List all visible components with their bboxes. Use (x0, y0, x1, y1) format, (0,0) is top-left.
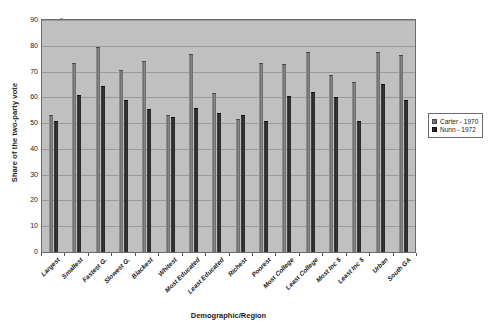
x-axis-tick-label: Smallest (60, 256, 84, 280)
bar-group (275, 20, 298, 252)
y-axis-tick-label: 50 (22, 119, 38, 126)
y-axis-tick-labels: 0102030405060708090 (22, 16, 38, 254)
bar-carter[interactable] (212, 93, 216, 252)
bar-nunn[interactable] (124, 100, 128, 252)
bar-nunn[interactable] (381, 84, 385, 252)
bars-layer (42, 20, 415, 252)
bar-group (182, 20, 205, 252)
bar-nunn[interactable] (171, 117, 175, 252)
bar-carter[interactable] (399, 55, 403, 252)
bar-group (112, 20, 135, 252)
bar-carter[interactable] (166, 115, 170, 252)
legend-item[interactable]: Carter - 1970 (432, 118, 478, 125)
bar-carter[interactable] (119, 70, 123, 252)
bar-nunn[interactable] (334, 97, 338, 252)
x-axis-tick-label: Urban (371, 256, 389, 274)
bar-nunn[interactable] (54, 121, 58, 252)
bar-nunn[interactable] (264, 121, 268, 252)
bar-carter[interactable] (376, 52, 380, 252)
bar-nunn[interactable] (194, 108, 198, 252)
bar-carter[interactable] (236, 119, 240, 252)
bar-carter[interactable] (72, 63, 76, 252)
bar-carter[interactable] (306, 52, 310, 252)
bar-nunn[interactable] (311, 92, 315, 252)
legend-label: Carter - 1970 (440, 118, 478, 125)
plot-area (41, 19, 416, 253)
carter-swatch (432, 119, 437, 124)
bar-carter[interactable] (49, 115, 53, 252)
bar-group (205, 20, 228, 252)
bar-nunn[interactable] (101, 86, 105, 252)
bar-carter[interactable] (352, 82, 356, 252)
bar-group (368, 20, 391, 252)
bar-carter[interactable] (142, 61, 146, 252)
bar-group (229, 20, 252, 252)
bar-nunn[interactable] (404, 100, 408, 252)
bar-group (298, 20, 321, 252)
y-axis-tick-label: 80 (22, 41, 38, 48)
x-axis-tick-label: Largest (39, 256, 61, 278)
x-axis-tick-mark (416, 253, 417, 256)
bar-nunn[interactable] (77, 95, 81, 252)
bar-nunn[interactable] (241, 115, 245, 252)
y-axis-tick-label: 90 (22, 16, 38, 23)
bar-nunn[interactable] (147, 109, 151, 252)
y-axis-tick-label: 70 (22, 67, 38, 74)
legend-item[interactable]: Nunn - 1972 (432, 126, 478, 133)
bar-group (345, 20, 368, 252)
bar-carter[interactable] (259, 63, 263, 252)
bar-group (89, 20, 112, 252)
y-axis-title: Share of the two-party vote (10, 53, 19, 213)
chart-legend: Carter - 1970Nunn - 1972 (428, 113, 483, 138)
bar-group (392, 20, 415, 252)
x-axis-tick-label: Whitest (156, 256, 178, 278)
nunn-swatch (432, 127, 437, 132)
y-axis-tick-label: 60 (22, 93, 38, 100)
bar-nunn[interactable] (287, 96, 291, 252)
bar-carter[interactable] (189, 54, 193, 252)
bar-group (42, 20, 65, 252)
bar-nunn[interactable] (217, 113, 221, 252)
x-axis-title: Demographic/Region (41, 311, 416, 320)
y-axis-tick-label: 10 (22, 222, 38, 229)
y-axis-tick-label: 20 (22, 196, 38, 203)
bar-carter[interactable] (329, 75, 333, 252)
bar-chart: Share of the two-party vote 010203040506… (0, 0, 496, 334)
x-axis-tick-labels: LargestSmallestFastest G.Slowest G.Black… (41, 256, 416, 316)
x-axis-tick-label: Blackest (131, 256, 155, 280)
x-axis-tick-label: Richest (227, 256, 249, 278)
bar-group (252, 20, 275, 252)
x-axis-tick-label: Poorest (250, 256, 272, 278)
bar-nunn[interactable] (357, 121, 361, 252)
bar-group (65, 20, 88, 252)
bar-group (159, 20, 182, 252)
bar-carter[interactable] (282, 64, 286, 252)
x-axis-tick-label: South GA (386, 256, 412, 282)
bar-group (322, 20, 345, 252)
legend-label: Nunn - 1972 (440, 126, 476, 133)
y-axis-tick-label: 40 (22, 144, 38, 151)
y-axis-tick-label: 0 (22, 248, 38, 255)
bar-carter[interactable] (96, 47, 100, 252)
y-axis-tick-label: 30 (22, 170, 38, 177)
bar-group (135, 20, 158, 252)
